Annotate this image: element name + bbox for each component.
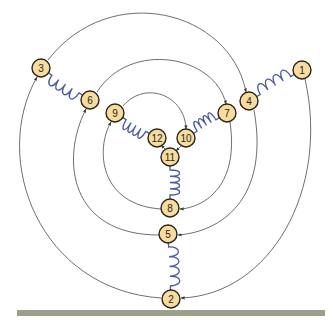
node-label: 8 [167, 203, 173, 214]
arrow-4-to-5 [178, 110, 257, 235]
node-8: 8 [161, 199, 179, 217]
node-label: 6 [87, 95, 93, 106]
arrow-6-to-7 [97, 59, 226, 104]
node-label: 3 [38, 63, 44, 74]
spring-3-6 [49, 73, 83, 99]
node-label: 11 [165, 152, 176, 163]
node-label: 2 [168, 294, 174, 305]
node-5: 5 [159, 225, 177, 243]
spring-8-11 [170, 166, 180, 199]
node-1: 1 [293, 61, 311, 79]
ground-bar [17, 310, 325, 316]
arrow-5-to-6 [73, 109, 159, 235]
arrow-3-to-4 [48, 13, 246, 92]
node-label: 4 [246, 96, 252, 107]
diagram-canvas: 123456789101112 [0, 0, 333, 328]
node-label: 1 [299, 65, 305, 76]
spring-2-5 [168, 243, 179, 290]
node-label: 10 [180, 133, 192, 144]
node-7: 7 [218, 104, 236, 122]
spring-1-4 [257, 70, 294, 96]
node-label: 12 [151, 133, 163, 144]
node-12: 12 [148, 129, 166, 147]
arrow-2-to-3 [20, 77, 161, 298]
arrow-1-to-2 [181, 79, 311, 298]
node-3: 3 [32, 59, 50, 77]
node-10: 10 [177, 129, 195, 147]
arrow-9-to-10 [123, 93, 186, 129]
node-4: 4 [240, 92, 258, 110]
spring-9-12 [123, 118, 150, 139]
node-9: 9 [106, 104, 124, 122]
node-label: 7 [224, 108, 230, 119]
node-2: 2 [162, 290, 180, 308]
node-label: 5 [165, 229, 171, 240]
node-6: 6 [81, 91, 99, 109]
node-label: 9 [112, 108, 118, 119]
spring-7-10 [194, 113, 220, 133]
node-11: 11 [161, 148, 179, 166]
